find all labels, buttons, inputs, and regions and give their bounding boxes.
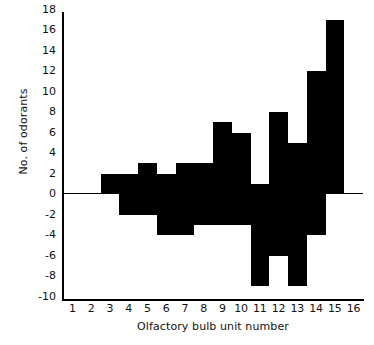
x-axis-line [62, 299, 364, 301]
y-tick-label: -8 [30, 270, 56, 281]
bar-negative [288, 194, 307, 286]
bar-positive [213, 122, 232, 194]
zero-baseline [63, 193, 363, 194]
y-tick-label: 14 [30, 45, 56, 56]
y-tick-label: 16 [30, 24, 56, 35]
chart-container: No. of odorants Olfactory bulb unit numb… [0, 0, 374, 345]
y-tick-label: 10 [30, 86, 56, 97]
y-tick-label: -4 [30, 229, 56, 240]
bar-negative [138, 194, 157, 215]
bar-positive [307, 71, 326, 194]
bar-positive [176, 163, 195, 194]
bar-positive [288, 143, 307, 194]
y-tick-label: -10 [30, 291, 56, 302]
y-tick-label: 0 [30, 188, 56, 199]
y-axis-line [62, 12, 64, 301]
y-tick-label: 4 [30, 147, 56, 158]
bar-positive [157, 174, 176, 195]
bar-negative [307, 194, 326, 235]
bar-negative [269, 194, 288, 256]
bar-negative [232, 194, 251, 225]
bar-negative [213, 194, 232, 225]
y-tick-label: 6 [30, 127, 56, 138]
x-tick-label: 16 [342, 303, 366, 315]
bar-positive [194, 163, 213, 194]
y-tick-label: -6 [30, 250, 56, 261]
y-axis-title: No. of odorants [17, 62, 30, 202]
bar-positive [232, 133, 251, 195]
y-tick-label: 12 [30, 65, 56, 76]
bar-negative [157, 194, 176, 235]
bar-positive [119, 174, 138, 195]
x-axis-title: Olfactory bulb unit number [63, 320, 363, 333]
bar-positive [101, 174, 120, 195]
bar-negative [194, 194, 213, 225]
y-tick-label: -2 [30, 209, 56, 220]
bar-positive [138, 163, 157, 194]
bar-negative [176, 194, 195, 235]
y-tick-label: 2 [30, 168, 56, 179]
bar-positive [326, 20, 345, 194]
y-tick-label: 18 [30, 4, 56, 15]
bar-negative [251, 194, 270, 286]
bar-positive [269, 112, 288, 194]
y-tick-label: 8 [30, 106, 56, 117]
bar-negative [119, 194, 138, 215]
